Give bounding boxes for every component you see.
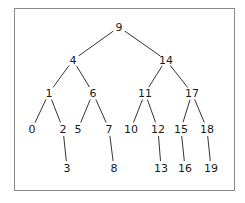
tree-edge-2-3 <box>64 136 67 161</box>
tree-diagram: 941416111702571012151838131619 <box>0 0 245 203</box>
tree-node-1: 1 <box>46 87 53 100</box>
tree-node-6: 6 <box>90 87 97 100</box>
tree-node-12: 12 <box>151 123 165 136</box>
tree-node-18: 18 <box>200 123 214 136</box>
tree-edges <box>35 31 210 161</box>
tree-edge-4-1 <box>53 66 69 88</box>
tree-edge-14-17 <box>170 66 187 88</box>
tree-edge-6-5 <box>81 100 91 123</box>
tree-edge-15-16 <box>182 136 185 161</box>
tree-node-10: 10 <box>124 123 138 136</box>
tree-node-13: 13 <box>154 162 168 175</box>
tree-node-14: 14 <box>159 54 173 67</box>
tree-edge-1-2 <box>52 100 61 123</box>
tree-node-3: 3 <box>64 162 71 175</box>
tree-node-9: 9 <box>116 21 123 34</box>
tree-edge-14-11 <box>149 66 162 87</box>
tree-node-11: 11 <box>138 87 152 100</box>
tree-nodes: 941416111702571012151838131619 <box>29 21 219 175</box>
tree-edge-9-14 <box>125 31 161 56</box>
tree-edge-17-18 <box>195 100 205 123</box>
tree-node-2: 2 <box>60 123 67 136</box>
tree-node-4: 4 <box>70 54 77 67</box>
tree-node-19: 19 <box>204 162 218 175</box>
tree-node-8: 8 <box>111 162 118 175</box>
tree-edge-11-10 <box>134 100 143 123</box>
tree-node-5: 5 <box>75 123 82 136</box>
tree-edge-6-7 <box>96 99 106 122</box>
tree-node-16: 16 <box>178 162 192 175</box>
tree-edge-11-12 <box>147 100 155 123</box>
tree-edge-12-13 <box>159 136 161 161</box>
tree-node-7: 7 <box>106 123 113 136</box>
tree-edge-4-6 <box>77 66 90 87</box>
tree-node-17: 17 <box>185 87 199 100</box>
tree-node-15: 15 <box>174 123 188 136</box>
tree-edge-9-4 <box>79 31 114 56</box>
tree-edge-7-8 <box>110 136 113 161</box>
tree-edge-1-0 <box>35 99 46 122</box>
tree-edge-17-15 <box>183 100 190 123</box>
tree-edge-18-19 <box>208 136 211 161</box>
tree-node-0: 0 <box>29 123 36 136</box>
